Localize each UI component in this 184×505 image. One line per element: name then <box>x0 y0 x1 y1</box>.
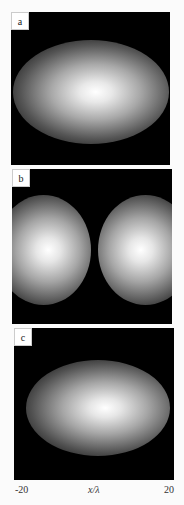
intensity-spot <box>13 40 169 144</box>
x-axis-min-tick: -20 <box>15 484 28 495</box>
panel-a: a <box>11 12 170 165</box>
x-axis-max-tick: 20 <box>164 484 174 495</box>
panel-label: b <box>12 169 30 187</box>
x-axis-label: x/λ <box>88 484 100 495</box>
panel-c: c <box>14 328 174 480</box>
panel-label: c <box>14 328 32 346</box>
intensity-spot-right <box>98 195 172 305</box>
panel-b: b <box>12 169 172 324</box>
intensity-spot <box>26 360 170 456</box>
panel-label: a <box>11 12 29 30</box>
intensity-spot-left <box>12 195 91 305</box>
